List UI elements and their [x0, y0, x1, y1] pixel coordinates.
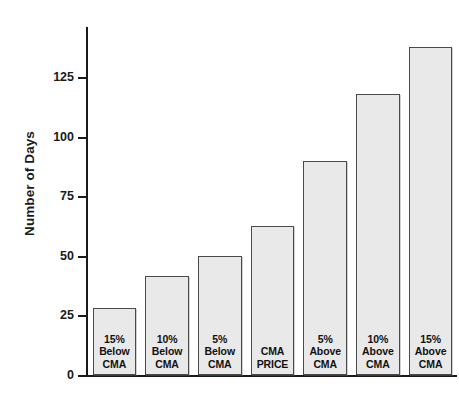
- bar-category-label-line: CMA: [357, 358, 399, 371]
- bar-category-label-line: Above: [410, 345, 452, 358]
- bar-category-label-line: 15%: [410, 333, 452, 346]
- plot-area: 15%BelowCMA10%BelowCMA5%BelowCMACMAPRICE…: [88, 27, 457, 375]
- y-ticklabel-50-wrap: 50: [32, 250, 74, 263]
- y-ticklabel-25-wrap: 25: [32, 309, 74, 322]
- bar: 15%AboveCMA: [409, 47, 453, 375]
- y-ticklabel-25: 25: [36, 309, 74, 322]
- bar-category-label-line: CMA: [252, 345, 294, 358]
- bar-category-label: 15%AboveCMA: [410, 333, 452, 371]
- y-ticklabel-0-wrap: 0: [32, 369, 74, 382]
- bar: 10%BelowCMA: [145, 276, 189, 375]
- bar-category-label: 10%AboveCMA: [357, 333, 399, 371]
- bar: 5%AboveCMA: [303, 161, 347, 375]
- bar-category-label: 5%AboveCMA: [304, 333, 346, 371]
- y-tick-0: [78, 375, 87, 377]
- bar-category-label-line: CMA: [410, 358, 452, 371]
- bar-category-label-line: 10%: [146, 333, 188, 346]
- y-tick-50: [78, 256, 87, 258]
- bar-category-label-line: Above: [304, 345, 346, 358]
- x-axis-line: [86, 375, 457, 377]
- y-ticklabel-125-wrap: 125: [32, 71, 74, 84]
- bar: 5%BelowCMA: [198, 256, 242, 375]
- y-ticklabel-75-wrap: 75: [32, 190, 74, 203]
- bar: 10%AboveCMA: [356, 94, 400, 375]
- bar-category-label-line: CMA: [94, 358, 136, 371]
- bar-category-label-line: 5%: [199, 333, 241, 346]
- y-tick-75: [78, 196, 87, 198]
- bar-chart: Number of Days 0 25 50 75 100 125 15%Bel…: [0, 0, 459, 402]
- bar-category-label-line: PRICE: [252, 358, 294, 371]
- bar-category-label-line: CMA: [304, 358, 346, 371]
- bar-category-label-line: Above: [357, 345, 399, 358]
- bar-category-label: CMAPRICE: [252, 345, 294, 370]
- bar: 15%BelowCMA: [93, 308, 137, 375]
- y-ticklabel-50: 50: [36, 250, 74, 263]
- bar-category-label-line: CMA: [146, 358, 188, 371]
- y-tick-100: [78, 137, 87, 139]
- y-ticklabel-100-wrap: 100: [32, 131, 74, 144]
- bar-category-label-line: 10%: [357, 333, 399, 346]
- bar-category-label-line: Below: [94, 345, 136, 358]
- y-tick-125: [78, 77, 87, 79]
- bar-category-label-line: Below: [199, 345, 241, 358]
- bar-category-label-line: 15%: [94, 333, 136, 346]
- y-ticklabel-125: 125: [36, 71, 74, 84]
- y-axis-title: Number of Days: [22, 104, 37, 264]
- bar-category-label: 5%BelowCMA: [199, 333, 241, 371]
- y-ticklabel-100: 100: [36, 131, 74, 144]
- bar-category-label-line: Below: [146, 345, 188, 358]
- y-ticklabel-0: 0: [36, 369, 74, 382]
- bar-category-label: 10%BelowCMA: [146, 333, 188, 371]
- bar-category-label-line: 5%: [304, 333, 346, 346]
- bar: CMAPRICE: [251, 226, 295, 375]
- y-tick-25: [78, 315, 87, 317]
- bar-category-label: 15%BelowCMA: [94, 333, 136, 371]
- y-ticklabel-75: 75: [36, 190, 74, 203]
- bar-category-label-line: CMA: [199, 358, 241, 371]
